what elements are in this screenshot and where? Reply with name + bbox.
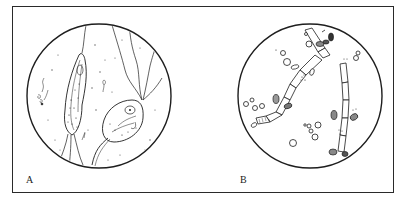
small-organisms-left [38,78,48,105]
panel-a-microscope-field [27,22,171,168]
panel-b-microscope-field [238,24,382,168]
fungal-hypha-icon [338,63,349,152]
small-organism-squiggle [82,132,85,140]
figure-illustration [0,0,404,200]
scattered-particles [47,39,155,160]
panel-label-b: B [240,175,247,185]
panel-a-circle [27,24,171,168]
small-organism-squiggle [103,80,106,92]
panel-label-a: A [26,175,33,185]
protozoan-left-icon [58,25,86,168]
